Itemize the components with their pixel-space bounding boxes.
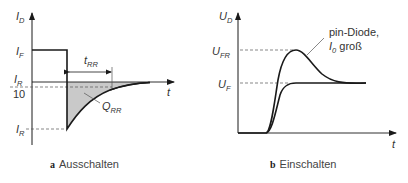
level-label-ir10-denominator: 10 xyxy=(13,88,25,100)
level-label-ir10-numerator: IR xyxy=(14,73,23,88)
diagram-canvas: ID IF IR 10 IR tRR QRR t aAusschalten UD… xyxy=(0,0,408,183)
pin-diode-leader-line xyxy=(307,38,324,55)
caption-b: bEinschalten xyxy=(270,158,336,170)
t-axis-label: t xyxy=(392,138,396,150)
level-label-if: IF xyxy=(16,45,24,60)
ud-normal-curve xyxy=(266,83,366,133)
t-axis-label: t xyxy=(167,86,171,98)
qrr-label: QRR xyxy=(102,100,122,115)
panel-b-turn-on: UD UFR UF pin-Diode, I0 groß t bEinschal… xyxy=(212,10,396,170)
trr-label: tRR xyxy=(84,54,98,69)
panel-a-turn-off: ID IF IR 10 IR tRR QRR t aAusschalten xyxy=(10,10,174,170)
level-label-uf: UF xyxy=(218,78,231,93)
y-axis-label-ud: UD xyxy=(219,10,233,25)
pin-diode-annotation-line2: I0 groß xyxy=(329,40,362,55)
level-label-ufr: UFR xyxy=(212,45,231,60)
y-axis-label-id: ID xyxy=(16,10,25,25)
pin-diode-annotation-line1: pin-Diode, xyxy=(329,26,379,38)
level-label-ir: IR xyxy=(16,123,25,138)
caption-a: aAusschalten xyxy=(50,158,119,170)
